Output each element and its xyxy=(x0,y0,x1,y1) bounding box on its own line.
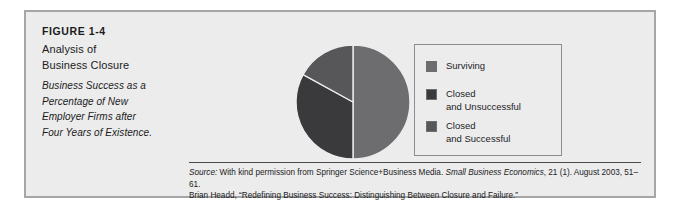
legend-swatch-icon-0 xyxy=(426,61,437,72)
source-line-1-text-a: With kind permission from Springer Scien… xyxy=(217,168,445,177)
legend-label-2: Closed and Successful xyxy=(446,119,510,145)
figure-subtitle: Business Success as a Percentage of New … xyxy=(42,78,182,140)
source-note: Source: With kind permission from Spring… xyxy=(189,167,649,202)
figure-title-line-1: Analysis of xyxy=(42,41,182,57)
figure-subtitle-line-3: Employer Firms after xyxy=(42,109,182,125)
pie-chart-svg xyxy=(288,30,423,170)
pie-slice-0[interactable] xyxy=(353,45,410,159)
figure-subtitle-line-1: Business Success as a xyxy=(42,78,182,94)
legend-item-surviving[interactable]: Surviving xyxy=(426,59,485,72)
legend-label-1: Closed and Unsuccessful xyxy=(446,87,521,113)
legend-swatch-icon-2 xyxy=(426,121,437,132)
source-divider xyxy=(189,162,641,163)
pie-slice-group xyxy=(296,45,410,159)
pie-chart xyxy=(288,30,423,170)
figure-number: FIGURE 1-4 xyxy=(42,24,182,39)
figure-subtitle-line-2: Percentage of New xyxy=(42,94,182,110)
legend-item-closed-and-successful[interactable]: Closed and Successful xyxy=(426,119,510,145)
source-prefix: Source: xyxy=(189,168,217,177)
figure-container: FIGURE 1-4 Analysis of Business Closure … xyxy=(24,10,656,198)
source-journal-title: Small Business Economics xyxy=(445,168,543,177)
source-line-1: Source: With kind permission from Spring… xyxy=(189,167,649,190)
chart-legend: Surviving Closed and Unsuccessful Closed… xyxy=(414,44,562,156)
legend-item-closed-and-unsuccessful[interactable]: Closed and Unsuccessful xyxy=(426,87,521,113)
legend-swatch-icon-1 xyxy=(426,89,437,100)
figure-caption: FIGURE 1-4 Analysis of Business Closure … xyxy=(42,24,182,140)
source-line-2: Brian Headd, “Redefining Business Succes… xyxy=(189,190,649,202)
figure-subtitle-line-4: Four Years of Existence. xyxy=(42,125,182,141)
legend-label-0: Surviving xyxy=(446,59,485,72)
figure-title-line-2: Business Closure xyxy=(42,57,182,73)
